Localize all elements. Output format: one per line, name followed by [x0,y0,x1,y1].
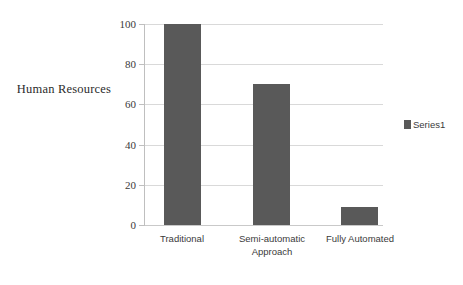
x-category-label-traditional: Traditional [146,232,218,245]
x-category-label-traditional-line1: Traditional [146,232,218,245]
x-category-label-semi-automatic: Semi-automatic Approach [232,232,312,258]
y-tick-label-0: 0 [104,219,136,231]
x-category-label-fully-automated: Fully Automated [320,232,400,245]
y-tick-label-80: 80 [104,58,136,70]
plot-area [145,24,383,225]
y-tick-label-20: 20 [104,179,136,191]
legend-label-series1: Series1 [413,119,445,130]
bar-semi-automatic[interactable] [253,84,290,225]
x-category-label-semi-automatic-line2: Approach [232,245,312,258]
y-tick-label-40: 40 [104,139,136,151]
y-tick-label-60: 60 [104,98,136,110]
y-axis-tick-labels: 100 80 60 40 20 0 [100,0,136,285]
legend-swatch-series1 [404,120,411,129]
gridline-0-baseline [145,225,383,226]
x-category-label-fully-automated-line1: Fully Automated [320,232,400,245]
bar-fully-automated[interactable] [341,207,378,225]
bar-chart: Human Resources 100 80 60 40 20 0 Tradit… [0,0,463,285]
legend: Series1 [404,119,445,130]
x-category-label-semi-automatic-line1: Semi-automatic [232,232,312,245]
bar-traditional[interactable] [164,24,201,225]
y-tick-label-100: 100 [104,18,136,30]
